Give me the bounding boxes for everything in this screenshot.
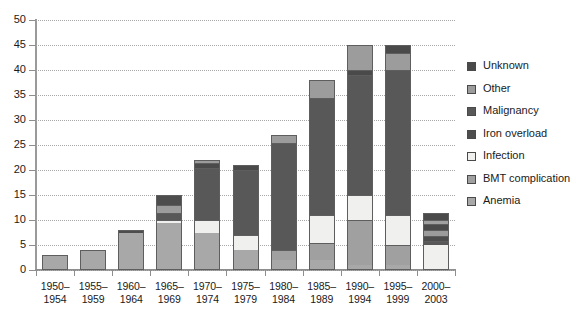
y-tick-mark	[29, 195, 36, 196]
legend-item: Other	[467, 81, 575, 104]
legend-swatch-icon	[467, 62, 476, 71]
legend-swatch-icon	[467, 107, 476, 116]
y-tick-label: 35	[0, 89, 26, 100]
x-tick-label: 1975–1979	[226, 280, 264, 306]
y-tick-mark	[29, 145, 36, 146]
x-tick-label-line: 1994	[341, 293, 379, 306]
x-tick-label: 1965–1969	[150, 280, 188, 306]
bar-segment	[423, 245, 449, 270]
legend-swatch-icon	[467, 85, 476, 94]
y-tick-label: 10	[0, 214, 26, 225]
x-tick-mark	[265, 270, 266, 276]
bar	[156, 20, 182, 270]
y-tick-mark	[29, 245, 36, 246]
bar-segment	[423, 230, 449, 236]
bar	[385, 20, 411, 270]
bar-segment	[309, 98, 335, 216]
bar-segment	[385, 53, 411, 71]
y-tick-label: 50	[0, 14, 26, 25]
bar	[309, 20, 335, 270]
x-tick-mark	[303, 270, 304, 276]
bar-segment	[233, 250, 259, 270]
x-tick-label-line: 2003	[417, 293, 455, 306]
y-tick-mark	[29, 170, 36, 171]
x-tick-label-line: 1995–	[379, 280, 417, 293]
x-tick-label-line: 2000–	[417, 280, 455, 293]
x-tick-label-line: 1965–	[150, 280, 188, 293]
x-tick-label: 1960–1964	[112, 280, 150, 306]
bar	[347, 20, 373, 270]
bar-segment	[347, 75, 373, 195]
legend-item: Iron overload	[467, 126, 575, 149]
x-tick-mark	[341, 270, 342, 276]
y-tick-label: 40	[0, 64, 26, 75]
bar	[423, 20, 449, 270]
legend-item-label: BMT complication	[483, 171, 570, 185]
x-tick-label: 1950–1954	[36, 280, 74, 306]
bar-segment	[347, 70, 373, 75]
x-tick-label-line: 1985–	[303, 280, 341, 293]
bar	[118, 20, 144, 270]
bar-segment	[347, 195, 373, 220]
x-tick-label-line: 1989	[303, 293, 341, 306]
x-tick-mark	[226, 270, 227, 276]
bar-segment	[347, 265, 373, 270]
bar-segment	[423, 220, 449, 224]
legend-item: Unknown	[467, 58, 575, 81]
legend-item-label: Other	[483, 81, 511, 95]
x-tick-mark	[150, 270, 151, 276]
legend-item-label: Infection	[483, 148, 525, 162]
bar-segment	[80, 250, 106, 270]
bar-segment	[271, 260, 297, 270]
y-tick-label: 20	[0, 164, 26, 175]
legend-item: BMT complication	[467, 171, 575, 194]
x-tick-mark	[36, 270, 37, 276]
bar	[80, 20, 106, 270]
x-tick-label-line: 1964	[112, 293, 150, 306]
bar-segment	[385, 215, 411, 245]
y-tick-label: 45	[0, 39, 26, 50]
legend-item-label: Iron overload	[483, 126, 547, 140]
legend-item: Anemia	[467, 193, 575, 216]
x-tick-label-line: 1950–	[36, 280, 74, 293]
bar-segment	[271, 143, 297, 251]
bar-segment	[385, 265, 411, 270]
bar-segment	[194, 168, 220, 221]
y-tick-label: 5	[0, 239, 26, 250]
bar-segment	[423, 241, 449, 245]
bar	[233, 20, 259, 270]
bar	[194, 20, 220, 270]
x-tick-mark	[417, 270, 418, 276]
bar-segment	[385, 70, 411, 215]
y-tick-mark	[29, 45, 36, 46]
bar-segment	[156, 220, 182, 223]
legend-item: Malignancy	[467, 103, 575, 126]
x-tick-label: 1980–1984	[265, 280, 303, 306]
x-tick-label: 1985–1989	[303, 280, 341, 306]
legend-swatch-icon	[467, 152, 476, 161]
x-tick-label-line: 1974	[188, 293, 226, 306]
bar	[271, 20, 297, 270]
bar-segment	[194, 163, 220, 168]
x-tick-mark	[379, 270, 380, 276]
bar-segment	[423, 224, 449, 230]
bar-segment	[194, 220, 220, 233]
legend-swatch-icon	[467, 175, 476, 184]
plot-area	[36, 20, 455, 270]
bar-segment	[309, 215, 335, 243]
bar-segment	[118, 230, 144, 233]
x-tick-label-line: 1959	[74, 293, 112, 306]
bar-segment	[309, 80, 335, 98]
bar-segment	[194, 160, 220, 163]
bar	[42, 20, 68, 270]
x-tick-mark	[188, 270, 189, 276]
gridline	[36, 270, 455, 271]
chart-legend: UnknownOtherMalignancyIron overloadInfec…	[467, 58, 575, 216]
bar-segment	[156, 223, 182, 271]
x-tick-label-line: 1970–	[188, 280, 226, 293]
bar-segment	[42, 255, 68, 270]
x-tick-label: 1990–1994	[341, 280, 379, 306]
x-tick-label: 1995–1999	[379, 280, 417, 306]
bar-segment	[156, 195, 182, 205]
legend-item-label: Anemia	[483, 193, 520, 207]
